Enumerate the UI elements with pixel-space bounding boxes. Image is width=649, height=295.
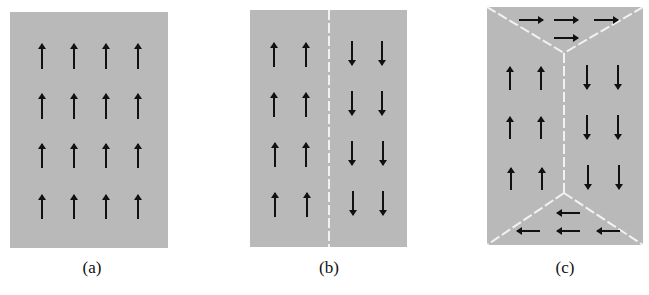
single-domain-diagram xyxy=(10,12,168,248)
panel-b xyxy=(250,10,407,247)
two-domain-diagram xyxy=(250,10,407,247)
panel-b-label: (b) xyxy=(299,258,359,278)
panel-a-label: (a) xyxy=(62,258,122,278)
closure-domain-diagram xyxy=(487,7,643,245)
panel-c xyxy=(487,7,643,245)
panel-c-label: (c) xyxy=(535,258,595,278)
panel-a xyxy=(10,12,168,248)
